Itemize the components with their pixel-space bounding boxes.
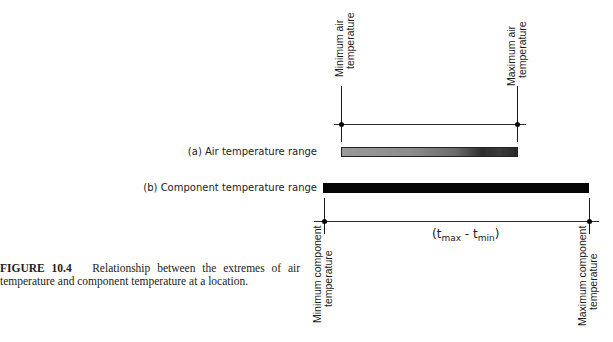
min-component-temp-label: Minimum component temperature bbox=[312, 226, 334, 323]
component-range-label: (b) Component temperature range bbox=[143, 182, 317, 193]
temperature-span-formula: (tmax - tmin) bbox=[432, 227, 499, 243]
max-air-point bbox=[515, 122, 520, 127]
min-component-point bbox=[322, 219, 327, 224]
max-component-point bbox=[587, 219, 592, 224]
air-range-label: (a) Air temperature range bbox=[188, 146, 317, 157]
figure-number: FIGURE 10.4 bbox=[0, 262, 72, 274]
figure-caption: FIGURE 10.4 Relationship between the ext… bbox=[0, 262, 300, 288]
component-range-axis bbox=[314, 221, 599, 222]
component-range-bar bbox=[323, 183, 589, 193]
min-air-point bbox=[339, 122, 344, 127]
air-range-axis bbox=[334, 124, 526, 125]
min-air-temp-label: Minimum air temperature bbox=[334, 12, 356, 77]
max-air-temp-label: Maximum air temperature bbox=[506, 21, 528, 86]
max-component-temp-label: Maximum component temperature bbox=[577, 226, 599, 326]
max-air-marker-line bbox=[517, 86, 518, 142]
min-air-marker-line bbox=[341, 86, 342, 142]
air-range-bar bbox=[341, 147, 518, 157]
